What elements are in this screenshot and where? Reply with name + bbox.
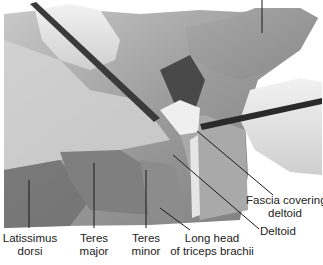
label-long-head-triceps: Long head of triceps brachii xyxy=(170,232,254,258)
label-deltoid: Deltoid xyxy=(260,225,306,238)
label-fascia-covering-deltoid: Fascia covering deltoid xyxy=(246,194,323,220)
anatomy-figure: Latissimus dorsi Teres major Teres minor… xyxy=(0,0,323,265)
label-teres-minor: Teres minor xyxy=(128,232,164,258)
label-teres-major: Teres major xyxy=(76,232,112,258)
label-latissimus-dorsi: Latissimus dorsi xyxy=(2,232,58,258)
